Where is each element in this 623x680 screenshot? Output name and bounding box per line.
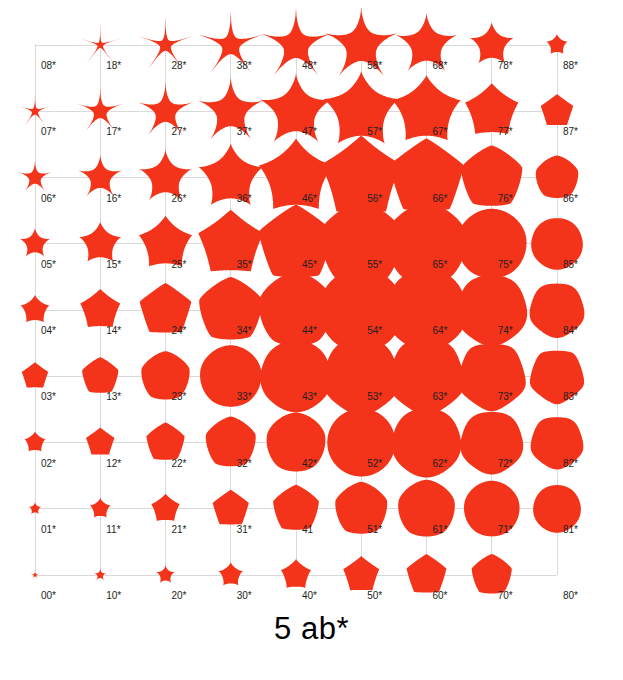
- supershape-marker: [389, 139, 463, 211]
- cell-label: 55*: [367, 259, 382, 270]
- figure-title: 5 ab*: [0, 612, 623, 646]
- cell-label: 25*: [172, 259, 187, 270]
- cell-label: 00*: [41, 590, 56, 601]
- supershape-marker: [387, 203, 467, 283]
- supershape-marker: [199, 277, 262, 339]
- supershape-marker: [260, 341, 331, 412]
- cell-label: 42*: [302, 458, 317, 469]
- supershape-marker: [457, 209, 527, 279]
- cell-label: 13*: [106, 391, 121, 402]
- cell-label: 52*: [367, 458, 382, 469]
- cell-label: 34*: [237, 325, 252, 336]
- cell-label: 35*: [237, 259, 252, 270]
- cell-label: 14*: [106, 325, 121, 336]
- cell-label: 12*: [106, 458, 121, 469]
- cell-label: 60*: [433, 590, 448, 601]
- supershape-marker: [90, 498, 111, 518]
- supershape-marker: [146, 423, 184, 460]
- cell-label: 64*: [433, 325, 448, 336]
- supershape-marker: [343, 556, 379, 590]
- cell-label: 32*: [237, 458, 252, 469]
- supershape-marker: [281, 559, 311, 588]
- cell-label: 86*: [563, 193, 578, 204]
- supershape-marker: [472, 554, 512, 594]
- cell-label: 31*: [237, 524, 252, 535]
- supershape-marker: [456, 276, 527, 346]
- cell-label: 22*: [172, 458, 187, 469]
- cell-label: 61*: [433, 524, 448, 535]
- cell-label: 21*: [172, 524, 187, 535]
- cell-label: 51*: [367, 524, 382, 535]
- cell-label: 57*: [367, 126, 382, 137]
- supershape-markers: [19, 7, 585, 594]
- supershape-plot: 00*01*02*03*04*05*06*07*08*10*11*12*13*1…: [0, 0, 623, 680]
- cell-label: 63*: [433, 391, 448, 402]
- supershape-marker: [22, 362, 49, 387]
- cell-label: 58*: [367, 60, 382, 71]
- supershape-marker: [198, 210, 263, 272]
- cell-label: 46*: [302, 193, 317, 204]
- cell-label: 66*: [433, 193, 448, 204]
- cell-label: 06*: [41, 193, 56, 204]
- supershape-marker: [86, 428, 115, 455]
- supershape-marker: [470, 22, 514, 64]
- cell-label: 80*: [563, 590, 578, 601]
- cell-label: 03*: [41, 391, 56, 402]
- cell-label: 08*: [41, 60, 56, 71]
- supershape-marker: [156, 565, 175, 583]
- cell-label: 50*: [367, 590, 382, 601]
- cell-label: 11*: [106, 524, 120, 535]
- cell-label: 17*: [106, 126, 121, 137]
- supershape-marker: [392, 408, 461, 477]
- supershape-marker: [460, 412, 523, 474]
- cell-label: 47*: [302, 126, 317, 137]
- supershape-marker: [323, 71, 399, 143]
- cell-label: 65*: [433, 259, 448, 270]
- cell-label: 74*: [498, 325, 513, 336]
- cell-label: 30*: [237, 590, 252, 601]
- cell-label: 75*: [498, 259, 513, 270]
- supershape-marker: [218, 562, 243, 586]
- supershape-marker: [82, 357, 118, 393]
- supershape-marker: [392, 75, 460, 140]
- cell-label: 40*: [302, 590, 317, 601]
- supershape-marker: [259, 139, 333, 210]
- cell-label: 78*: [498, 60, 513, 71]
- cell-label: 04*: [41, 325, 56, 336]
- supershape-marker: [213, 490, 249, 525]
- supershape-marker: [80, 289, 120, 327]
- supershape-marker: [21, 295, 50, 322]
- cell-label: 44*: [302, 325, 317, 336]
- cell-label: 88*: [563, 60, 578, 71]
- cell-label: 18*: [106, 60, 121, 71]
- cell-label: 53*: [367, 391, 382, 402]
- supershape-marker: [327, 409, 395, 477]
- cell-label: 76*: [498, 193, 513, 204]
- cell-label: 68*: [433, 60, 448, 71]
- cell-label: 26*: [172, 193, 187, 204]
- cell-label: 82*: [563, 458, 578, 469]
- cell-label: 27*: [172, 126, 187, 137]
- cell-label: 33*: [237, 391, 252, 402]
- cell-label: 05*: [41, 259, 56, 270]
- cell-label: 24*: [172, 325, 187, 336]
- cell-label: 36*: [237, 193, 252, 204]
- cell-label: 10*: [106, 590, 121, 601]
- cell-label: 81*: [563, 524, 578, 535]
- cell-label: 62*: [433, 458, 448, 469]
- cell-label: 77*: [498, 126, 513, 137]
- cell-label: 67*: [433, 126, 448, 137]
- supershape-marker: [79, 222, 121, 262]
- supershape-marker: [461, 146, 522, 206]
- supershape-marker: [151, 494, 180, 521]
- supershape-marker: [407, 554, 447, 592]
- cell-label: 73*: [498, 391, 513, 402]
- cell-label: 28*: [172, 60, 187, 71]
- supershape-marker: [547, 34, 568, 54]
- cell-label: 87*: [563, 126, 578, 137]
- cell-label: 83*: [563, 391, 578, 402]
- cell-label: 43*: [302, 391, 317, 402]
- supershape-marker: [200, 345, 261, 407]
- supershape-marker: [198, 144, 263, 206]
- cell-label: 15*: [106, 259, 121, 270]
